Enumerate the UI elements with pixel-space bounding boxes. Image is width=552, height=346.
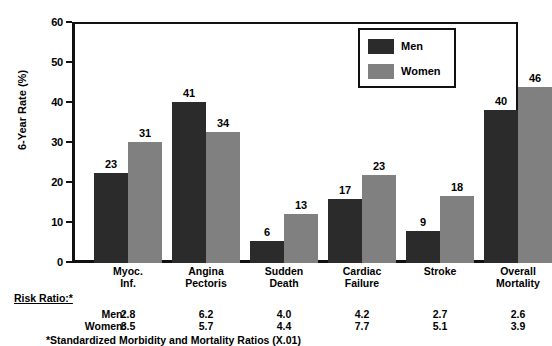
bar-group-angina-pectoris: 41 34 [172, 22, 240, 263]
bar-men-overall-mortality[interactable]: 40 [484, 110, 518, 263]
bar-value-label: 13 [295, 199, 307, 211]
legend: Men Women [358, 28, 456, 88]
y-tick-50: 50 [0, 56, 72, 68]
risk-ratio-women-cardiac-failure: 7.7 [328, 320, 396, 332]
x-category-line1: Myoc. [113, 265, 143, 277]
y-tick-label: 40 [51, 96, 72, 108]
bar-group-myoc-inf: 23 31 [94, 22, 162, 263]
x-category-line1: Cardiac [343, 265, 382, 277]
bar-value-label: 41 [183, 87, 195, 99]
bar-value-label: 46 [529, 72, 541, 84]
bar-value-label: 31 [139, 127, 151, 139]
risk-ratio-men-myoc-inf: 2.8 [94, 308, 162, 320]
risk-ratio-women-stroke: 5.1 [406, 320, 474, 332]
risk-ratio-women-sudden-death: 4.4 [250, 320, 318, 332]
x-category-myoc-inf: Myoc. Inf. [94, 266, 162, 289]
y-tick-label: 20 [51, 176, 72, 188]
legend-swatch-men [368, 39, 394, 54]
bar-women-cardiac-failure[interactable]: 23 [362, 175, 396, 263]
risk-ratio-footnote: *Standardized Morbidity and Mortality Ra… [46, 334, 301, 346]
legend-item-women[interactable]: Women [368, 63, 441, 79]
bar-value-label: 40 [495, 95, 507, 107]
y-tick-40: 40 [0, 96, 72, 108]
risk-ratio-women-angina-pectoris: 5.7 [172, 320, 240, 332]
x-category-line2: Death [250, 278, 318, 290]
x-category-line1: Sudden [265, 265, 304, 277]
bar-women-overall-mortality[interactable]: 46 [518, 87, 552, 263]
bar-women-sudden-death[interactable]: 13 [284, 214, 318, 263]
risk-ratio-men-angina-pectoris: 6.2 [172, 308, 240, 320]
bar-value-label: 23 [373, 160, 385, 172]
y-tick-0: 0 [0, 256, 72, 268]
risk-ratio-men-overall-mortality: 2.6 [484, 308, 552, 320]
x-category-line1: Overall [500, 265, 536, 277]
risk-ratio-men-cardiac-failure: 4.2 [328, 308, 396, 320]
x-category-line1: Angina [188, 265, 224, 277]
x-category-angina-pectoris: Angina Pectoris [172, 266, 240, 289]
y-tick-20: 20 [0, 176, 72, 188]
bar-women-myoc-inf[interactable]: 31 [128, 142, 162, 263]
bar-group-sudden-death: 6 13 [250, 22, 318, 263]
bar-group-overall-mortality: 40 46 [484, 22, 552, 263]
x-category-line2: Failure [328, 278, 396, 290]
y-tick-label: 50 [51, 56, 72, 68]
y-tick-10: 10 [0, 216, 72, 228]
bar-value-label: 34 [217, 117, 229, 129]
x-category-stroke: Stroke [406, 266, 474, 278]
bar-men-sudden-death[interactable]: 6 [250, 241, 284, 263]
x-category-cardiac-failure: Cardiac Failure [328, 266, 396, 289]
risk-ratio-women-myoc-inf: 8.5 [94, 320, 162, 332]
y-axis-title: 6-Year Rate (%) [16, 40, 28, 180]
bar-men-angina-pectoris[interactable]: 41 [172, 102, 206, 263]
x-category-line2: Pectoris [172, 278, 240, 290]
x-category-overall-mortality: Overall Mortality [484, 266, 552, 289]
risk-ratio-title: Risk Ratio:* [14, 292, 73, 304]
bar-value-label: 18 [451, 181, 463, 193]
x-category-line2: Inf. [94, 278, 162, 290]
y-tick-label: 10 [51, 216, 72, 228]
y-tick-60: 60 [0, 16, 72, 28]
bar-value-label: 23 [105, 158, 117, 170]
bar-value-label: 17 [339, 184, 351, 196]
risk-ratio-men-stroke: 2.7 [406, 308, 474, 320]
y-tick-label: 0 [57, 256, 72, 268]
bar-men-cardiac-failure[interactable]: 17 [328, 199, 362, 263]
y-tick-label: 30 [51, 136, 72, 148]
bar-men-stroke[interactable]: 9 [406, 231, 440, 263]
bar-women-stroke[interactable]: 18 [440, 196, 474, 263]
legend-label: Women [401, 65, 441, 77]
bar-value-label: 9 [420, 216, 426, 228]
legend-label: Men [401, 40, 423, 52]
bar-men-myoc-inf[interactable]: 23 [94, 173, 128, 263]
x-category-line1: Stroke [424, 265, 457, 277]
risk-ratio-women-overall-mortality: 3.9 [484, 320, 552, 332]
x-category-sudden-death: Sudden Death [250, 266, 318, 289]
legend-swatch-women [368, 64, 394, 79]
x-category-line2: Mortality [484, 278, 552, 290]
y-tick-30: 30 [0, 136, 72, 148]
legend-item-men[interactable]: Men [368, 38, 423, 54]
bar-value-label: 6 [264, 226, 270, 238]
risk-ratio-men-sudden-death: 4.0 [250, 308, 318, 320]
y-tick-label: 60 [51, 16, 72, 28]
bar-women-angina-pectoris[interactable]: 34 [206, 132, 240, 263]
